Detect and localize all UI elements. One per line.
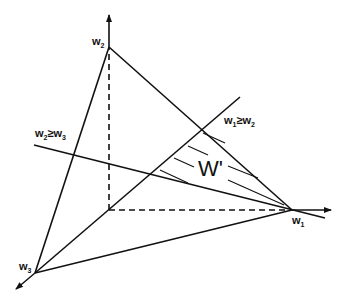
edge-w3-w1 [35,210,292,273]
constraint-label-w1-ge-w2: w1≥w2 [223,114,255,128]
labels: w2 w1 w3 w2≥w3 w1≥w2 W' [18,35,305,274]
simplex-diagram: w2 w1 w3 w2≥w3 w1≥w2 W' [0,0,346,305]
vertex-label-w3: w3 [18,260,32,274]
diagram-canvas: w2 w1 w3 w2≥w3 w1≥w2 W' [0,0,346,305]
w3-axis-arrow [16,273,35,289]
constraint-label-w2-ge-w3: w2≥w3 [34,127,66,141]
constraint-line-w1-ge-w2 [35,97,240,273]
constraint-line-w2-ge-w3 [34,145,325,218]
constraint-lines [34,97,325,273]
vertex-label-w2: w2 [91,35,105,49]
vertex-label-w1: w1 [291,214,305,228]
edge-w2-w3 [35,47,109,273]
region-label: W' [198,156,223,181]
